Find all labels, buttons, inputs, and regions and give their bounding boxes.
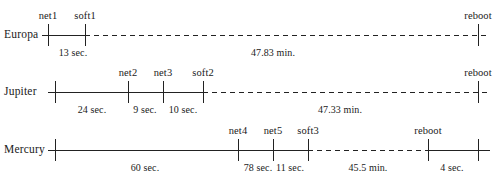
timeline-tick [163,81,164,103]
timeline-duration-label: 10 sec. [169,105,197,115]
timeline-event-label: net5 [264,126,282,137]
timeline-duration-label: 11 sec. [276,163,304,173]
timeline-tick [273,139,274,161]
timeline-event-label: reboot [464,68,491,79]
timeline-event-label: net3 [154,68,172,79]
timeline-event-label: net4 [229,126,247,137]
timeline-tick [128,81,129,103]
timeline-tick [238,139,239,161]
timeline-duration-label: 45.5 min. [349,163,388,173]
timeline-event-label: soft3 [297,126,319,137]
timeline-tick [203,81,204,103]
timeline-duration-label: 60 sec. [131,163,159,173]
timeline-diagram: Europanet1soft1reboot13 sec.47.83 min.Ju… [0,0,498,176]
timeline-duration-label: 4 sec. [440,163,463,173]
timeline-segment-solid [48,150,308,151]
timeline-tick [308,139,309,161]
timeline-duration-label: 47.33 min. [318,105,362,115]
timeline-event-label: soft2 [192,68,214,79]
timeline-segment-dashed [203,92,490,93]
timeline-event-label: net2 [119,68,137,79]
timeline-tick [55,139,56,161]
timeline-duration-label: 78 sec. [244,163,272,173]
timeline-duration-label: 24 sec. [78,105,106,115]
timeline-tick [478,139,479,161]
timeline-segment-solid [428,150,490,151]
timeline-tick [478,81,479,103]
timeline-duration-label: 9 sec. [133,105,156,115]
timeline-segment-solid [48,92,203,93]
timeline-segment-dashed [308,150,428,151]
timeline-row: Mercurynet4net5soft3reboot60 sec.78 sec.… [0,0,498,58]
timeline-row-label: Mercury [4,144,45,156]
timeline-tick [55,81,56,103]
timeline-row-label: Jupiter [4,86,37,98]
timeline-tick [428,139,429,161]
timeline-event-label: reboot [414,126,441,137]
